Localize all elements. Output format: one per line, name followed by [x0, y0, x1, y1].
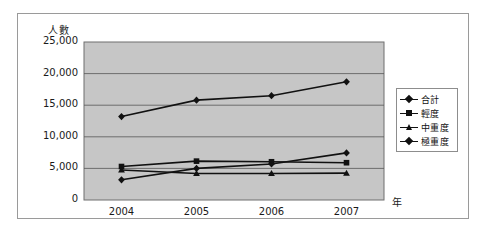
legend-item-label: 輕度 [421, 107, 440, 120]
data-point-marker [344, 160, 350, 166]
chart-legend: 合計 輕度 中重度 極重度 [396, 88, 458, 152]
y-axis-tick-label: 15,000 [28, 98, 78, 109]
legend-item[interactable]: 輕度 [400, 106, 455, 120]
legend-item-label: 合計 [421, 93, 440, 106]
legend-item[interactable]: 合計 [400, 92, 455, 106]
legend-marker-diamond-icon [400, 136, 418, 146]
legend-item-label: 中重度 [421, 121, 449, 134]
legend-item[interactable]: 中重度 [400, 120, 455, 134]
plot-area-background [84, 42, 384, 200]
y-axis-tick-label: 0 [28, 193, 78, 204]
y-axis-tick-label: 25,000 [28, 35, 78, 46]
x-axis-title: 年 [392, 194, 403, 209]
x-axis-tick-label: 2005 [172, 206, 222, 217]
data-point-marker [194, 158, 200, 164]
legend-item-label: 極重度 [421, 135, 449, 148]
legend-item[interactable]: 極重度 [400, 134, 455, 148]
legend-marker-diamond-icon [400, 94, 418, 104]
x-axis-tick-label: 2004 [97, 206, 147, 217]
y-axis-tick-label: 20,000 [28, 67, 78, 78]
x-axis-tick-label: 2006 [247, 206, 297, 217]
legend-marker-triangle-icon [400, 122, 418, 132]
y-axis-tick-label: 10,000 [28, 130, 78, 141]
legend-marker-square-icon [400, 108, 418, 118]
y-axis-tick-label: 5,000 [28, 161, 78, 172]
x-axis-tick-label: 2007 [322, 206, 372, 217]
